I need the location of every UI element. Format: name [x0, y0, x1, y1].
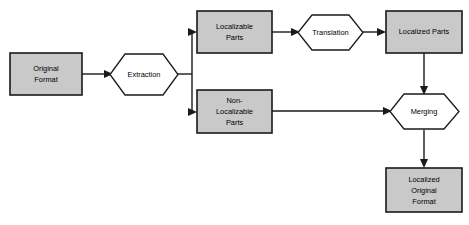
node-localizable-parts-line1: Localizable: [216, 22, 253, 31]
node-non-localizable-parts-line1: Non-: [226, 96, 243, 105]
node-original-format[interactable]: Original Format: [10, 53, 82, 95]
edge-extraction-to-nonlocalizable: [188, 74, 197, 116]
edge-extraction-to-localizable: [188, 28, 197, 74]
edge-localized-to-merging: [420, 53, 428, 95]
node-original-format-line2: Format: [34, 75, 57, 84]
edge-original-to-extraction: [82, 70, 113, 78]
node-merging-label: Merging: [411, 107, 438, 116]
node-translation[interactable]: Translation: [298, 15, 363, 50]
edge-nonlocalizable-to-merging: [272, 107, 392, 115]
node-extraction-label: Extraction: [128, 70, 161, 79]
edge-localizable-to-translation: [272, 28, 300, 36]
flowchart-canvas: Original Format Extraction Localizable P…: [0, 0, 469, 225]
edge-merging-to-output: [420, 130, 428, 168]
node-localized-original-format[interactable]: Localized Original Format: [386, 168, 462, 212]
node-localized-original-format-line2: Original: [411, 186, 437, 195]
node-non-localizable-parts-line2: Localizable: [216, 107, 253, 116]
node-localizable-parts[interactable]: Localizable Parts: [197, 11, 272, 53]
node-localized-original-format-line3: Format: [412, 197, 435, 206]
node-non-localizable-parts[interactable]: Non- Localizable Parts: [197, 90, 272, 133]
edge-translation-to-localized: [363, 28, 386, 36]
node-localized-original-format-line1: Localized: [408, 175, 439, 184]
node-extraction[interactable]: Extraction: [110, 54, 178, 95]
node-localized-parts-label: Localized Parts: [399, 27, 450, 36]
node-merging[interactable]: Merging: [390, 94, 459, 129]
node-localizable-parts-line2: Parts: [226, 33, 244, 42]
node-translation-label: Translation: [312, 28, 348, 37]
node-original-format-line1: Original: [33, 64, 59, 73]
node-localized-parts[interactable]: Localized Parts: [386, 11, 462, 53]
node-non-localizable-parts-line3: Parts: [226, 118, 244, 127]
flowchart-diagram: Original Format Extraction Localizable P…: [0, 0, 469, 225]
